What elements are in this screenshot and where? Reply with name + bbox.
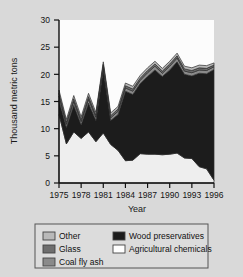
x-axis-ticks: 19751978198119841987199019931996 xyxy=(50,183,224,200)
y-axis-ticks: 051015202530 xyxy=(41,15,59,188)
legend-swatch xyxy=(113,245,125,253)
legend-item: Coal fly ash xyxy=(43,257,104,267)
legend-label: Wood preservatives xyxy=(129,231,204,241)
x-tick-label: 1990 xyxy=(160,190,179,200)
legend-swatch xyxy=(43,258,55,266)
legend-item: Glass xyxy=(43,244,81,254)
stacked-area-chart: 051015202530 197519781981198419871990199… xyxy=(0,0,243,277)
y-tick-label: 0 xyxy=(45,178,50,188)
legend-item: Other xyxy=(43,231,80,241)
legend-swatch xyxy=(43,232,55,240)
y-tick-label: 15 xyxy=(41,97,51,107)
x-tick-label: 1981 xyxy=(94,190,113,200)
x-tick-label: 1984 xyxy=(116,190,135,200)
x-axis-title: Year xyxy=(128,204,146,214)
y-tick-label: 20 xyxy=(41,70,51,80)
legend-label: Agricultural chemicals xyxy=(129,244,212,254)
legend-label: Coal fly ash xyxy=(59,257,104,267)
x-tick-label: 1987 xyxy=(138,190,157,200)
x-tick-label: 1993 xyxy=(182,190,201,200)
legend-label: Other xyxy=(59,231,80,241)
x-tick-label: 1978 xyxy=(72,190,91,200)
x-tick-label: 1975 xyxy=(50,190,69,200)
y-tick-label: 30 xyxy=(41,15,51,25)
chart-figure: 051015202530 197519781981198419871990199… xyxy=(0,0,243,277)
legend-swatch xyxy=(43,245,55,253)
legend-label: Glass xyxy=(59,244,81,254)
y-tick-label: 10 xyxy=(41,124,51,134)
chart-legend: OtherGlassCoal fly ashWood preservatives… xyxy=(35,224,212,268)
y-tick-label: 5 xyxy=(45,151,50,161)
x-tick-label: 1996 xyxy=(205,190,224,200)
legend-swatch xyxy=(113,232,125,240)
y-axis-title: Thousand metric tons xyxy=(9,57,19,144)
y-tick-label: 25 xyxy=(41,42,51,52)
